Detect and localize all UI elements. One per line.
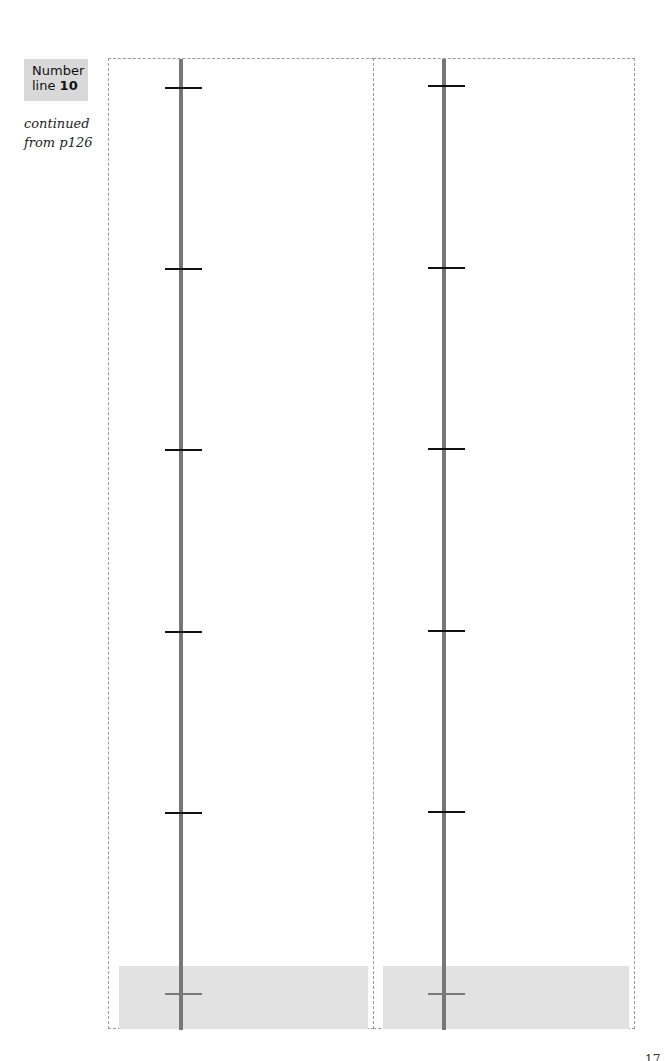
page-number: 17 — [645, 1051, 665, 1061]
label-number: 10 — [60, 78, 78, 93]
continued-line-2: from p126 — [24, 133, 104, 152]
tick-mark — [165, 268, 202, 270]
continued-line-1: continued — [24, 114, 104, 133]
tick-mark — [428, 85, 465, 87]
number-line-panel-right — [373, 58, 635, 1029]
shaded-tick-mark — [428, 993, 465, 995]
continued-note: continued from p126 — [24, 114, 104, 152]
tick-mark — [165, 449, 202, 451]
tick-mark — [428, 630, 465, 632]
number-line-axis — [442, 59, 446, 1030]
tick-mark — [428, 448, 465, 450]
tick-mark — [165, 631, 202, 633]
number-line-panel-left — [108, 58, 374, 1029]
tick-mark — [165, 87, 202, 89]
tick-mark — [428, 267, 465, 269]
number-line-axis — [179, 59, 183, 1030]
shaded-region — [383, 966, 629, 1029]
shaded-region — [119, 966, 368, 1029]
label-word: Number — [32, 63, 88, 78]
shaded-tick-mark — [165, 993, 202, 995]
tick-mark — [428, 811, 465, 813]
label-line: line 10 — [32, 78, 88, 93]
number-line-label: Number line 10 — [24, 59, 88, 101]
tick-mark — [165, 812, 202, 814]
